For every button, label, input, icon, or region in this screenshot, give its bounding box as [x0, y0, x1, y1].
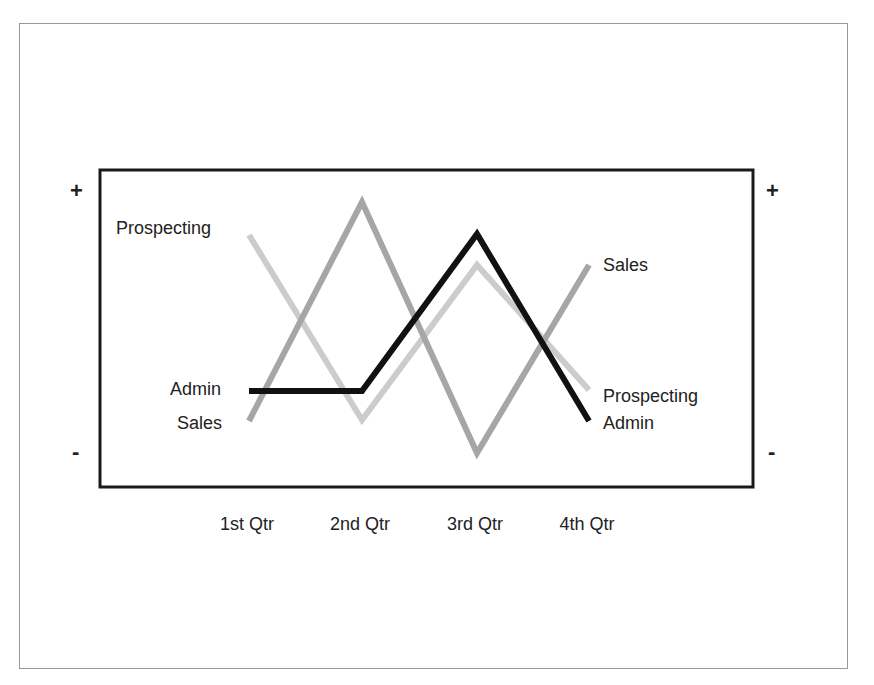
label-sales-end: Sales: [603, 255, 648, 275]
label-prospecting-end: Prospecting: [603, 386, 698, 406]
label-sales-start: Sales: [177, 413, 222, 433]
y-axis-plus-right: +: [766, 180, 779, 202]
x-tick-1st-qtr: 1st Qtr: [192, 514, 302, 534]
y-axis-minus-left: -: [72, 441, 79, 463]
line-chart: [0, 0, 874, 685]
series-sales-line: [249, 202, 589, 453]
x-tick-2nd-qtr: 2nd Qtr: [305, 514, 415, 534]
label-admin-end: Admin: [603, 413, 654, 433]
label-prospecting-start: Prospecting: [116, 218, 211, 238]
x-tick-4th-qtr: 4th Qtr: [532, 514, 642, 534]
label-admin-start: Admin: [170, 379, 221, 399]
y-axis-minus-right: -: [768, 441, 775, 463]
x-tick-3rd-qtr: 3rd Qtr: [420, 514, 530, 534]
y-axis-plus-left: +: [70, 180, 83, 202]
